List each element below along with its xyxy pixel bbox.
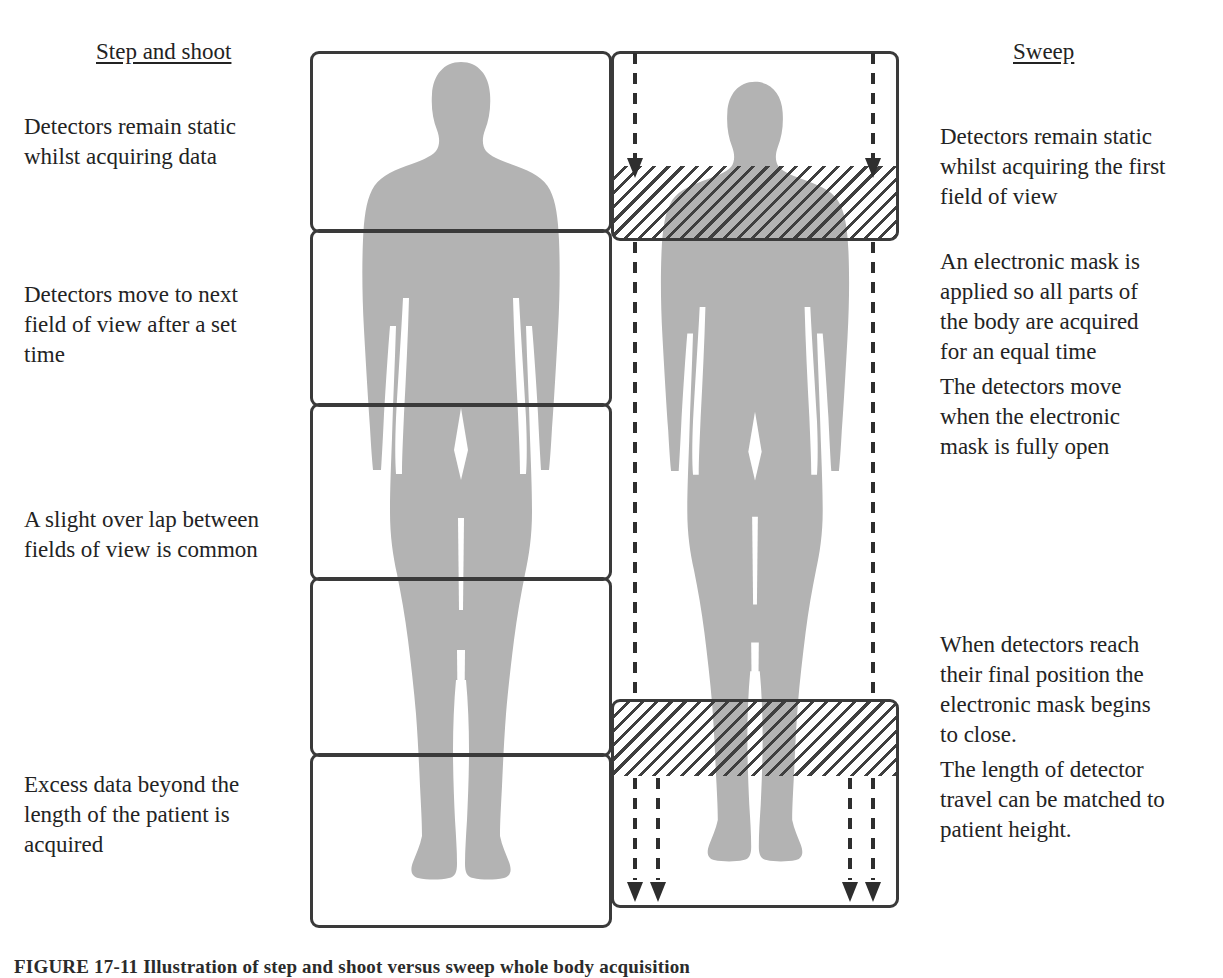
step-note-3: A slight over lap between fields of view… xyxy=(24,505,274,565)
field-of-view-box-3 xyxy=(310,403,612,581)
field-of-view-box-2 xyxy=(310,229,612,407)
sweep-title: Sweep xyxy=(1013,38,1074,66)
sweep-note-1: Detectors remain static whilst acquiring… xyxy=(940,122,1168,212)
step-note-4: Excess data beyond the length of the pat… xyxy=(24,770,274,860)
sweep-note-2: An electronic mask is applied so all par… xyxy=(940,247,1168,367)
step-note-2: Detectors move to next field of view aft… xyxy=(24,280,274,370)
figure-caption: FIGURE 17-11 Illustration of step and sh… xyxy=(14,956,690,978)
sweep-diagram xyxy=(606,0,906,972)
sweep-note-5: The length of detector travel can be mat… xyxy=(940,755,1168,845)
field-of-view-box-1 xyxy=(310,51,612,233)
step-note-1: Detectors remain static whilst acquiring… xyxy=(24,112,274,172)
sweep-note-4: When detectors reach their final positio… xyxy=(940,630,1168,750)
field-of-view-box-5 xyxy=(310,753,612,928)
sweep-detector-box-start xyxy=(611,51,899,241)
step-and-shoot-diagram xyxy=(306,0,616,972)
sweep-detector-box-end xyxy=(611,699,899,908)
step-and-shoot-title: Step and shoot xyxy=(96,38,231,66)
field-of-view-box-4 xyxy=(310,577,612,757)
sweep-note-3: The detectors move when the electronic m… xyxy=(940,372,1168,462)
